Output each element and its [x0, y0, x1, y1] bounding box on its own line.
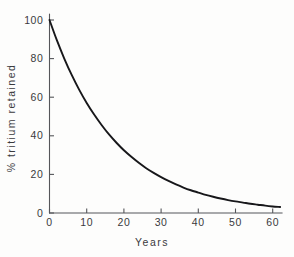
y-tick-label: 80: [31, 52, 44, 64]
x-tick-label: 10: [80, 216, 93, 228]
x-tick-label: 20: [117, 216, 130, 228]
chart-figure: % tritium retained Years 020406080100 01…: [0, 0, 294, 257]
decay-curve: [50, 20, 281, 207]
y-tick-label: 100: [24, 14, 43, 26]
y-tick-mark-group: [50, 20, 55, 213]
decay-chart-svg: % tritium retained Years 020406080100 01…: [0, 0, 294, 257]
y-tick-label-group: 020406080100: [24, 14, 43, 219]
x-tick-label: 30: [155, 216, 168, 228]
y-tick-label: 20: [31, 168, 44, 180]
x-tick-label: 50: [229, 216, 242, 228]
x-tick-label: 40: [192, 216, 205, 228]
x-tick-label: 0: [46, 216, 52, 228]
x-tick-mark-group: [50, 209, 273, 214]
y-axis-title: % tritium retained: [5, 64, 17, 173]
y-tick-label: 40: [31, 129, 44, 141]
y-tick-label: 0: [37, 207, 43, 219]
x-tick-label: 60: [266, 216, 279, 228]
x-tick-label-group: 0102030405060: [46, 216, 279, 228]
y-tick-label: 60: [31, 91, 44, 103]
x-axis-title: Years: [135, 236, 169, 248]
